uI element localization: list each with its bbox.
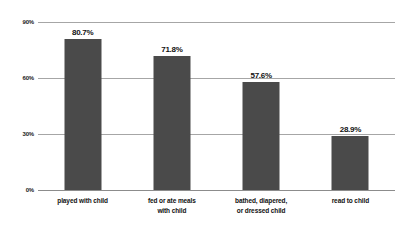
axis-baseline xyxy=(38,190,395,191)
bars-layer: 80.7% 71.8% 57.6% 28.9% xyxy=(38,22,395,190)
bar-group: 28.9% xyxy=(306,22,395,190)
bar-group: 71.8% xyxy=(127,22,216,190)
y-axis-tick-label: 30% xyxy=(4,131,34,137)
x-axis-tick-label: bathed, diapered, or dressed child xyxy=(211,196,311,216)
x-axis-label-line: bathed, diapered, xyxy=(211,196,311,206)
bar-value-label: 57.6% xyxy=(251,72,272,80)
bar-group: 57.6% xyxy=(217,22,306,190)
x-axis-label-line: played with child xyxy=(33,196,133,206)
y-axis-tick-label: 90% xyxy=(4,19,34,25)
bar-value-label: 28.9% xyxy=(340,126,361,134)
bar-value-label: 80.7% xyxy=(72,29,93,37)
y-axis-tick-label: 60% xyxy=(4,75,34,81)
y-axis: 90% 60% 30% 0% xyxy=(0,22,34,190)
bar-fed-or-ate-meals-with-child[interactable] xyxy=(153,56,190,190)
bar-bathed-diapered-or-dressed-child[interactable] xyxy=(243,82,280,190)
x-axis-tick-label: played with child xyxy=(33,196,133,206)
x-axis-label-line: fed or ate meals xyxy=(122,196,222,206)
bar-value-label: 71.8% xyxy=(161,46,182,54)
bar-group: 80.7% xyxy=(38,22,127,190)
x-axis-tick-label: fed or ate meals with child xyxy=(122,196,222,216)
x-axis-label-line: with child xyxy=(122,206,222,216)
x-axis-label-line: read to child xyxy=(300,196,400,206)
y-axis-tick-label: 0% xyxy=(4,187,34,193)
x-axis-label-line: or dressed child xyxy=(211,206,311,216)
bar-chart: 90% 60% 30% 0% 80.7% 71.8% 57.6% 28.9% xyxy=(0,0,420,243)
x-axis: played with child fed or ate meals with … xyxy=(38,196,395,236)
x-axis-tick-label: read to child xyxy=(300,196,400,206)
bar-read-to-child[interactable] xyxy=(332,136,369,190)
bar-played-with-child[interactable] xyxy=(64,39,101,190)
